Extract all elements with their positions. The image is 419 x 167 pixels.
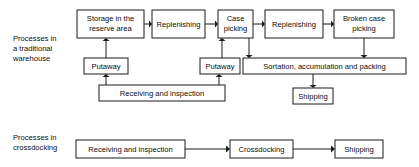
edge-receiving-to-putaway-2 [216,74,223,85]
group-label-crossdocking: Processes in crossdocking [13,133,57,152]
edge-receiving-bottom-to-crossdocking [185,146,230,153]
node-receiving-bottom-label: Receiving and inspection [88,145,172,154]
edge-case-picking-to-sortation [246,38,253,58]
node-shipping-bottom-label: Shipping [344,145,374,154]
node-receiving-top[interactable]: Receiving and inspection [99,85,225,101]
node-receiving-bottom[interactable]: Receiving and inspection [76,140,185,158]
group-label-crossdocking-line-2: crossdocking [13,143,57,152]
group-label-traditional: Processes in a traditional warehouse [12,34,56,63]
edge-crossdocking-to-shipping-bottom [293,146,335,153]
node-putaway-2-label: Putaway [205,62,234,71]
node-case-picking[interactable]: Case picking [218,10,253,38]
diagram-canvas: Processes in a traditional warehouse Pro… [0,0,419,167]
edge-case-picking-to-replenishing-2 [253,21,265,28]
node-case-picking-line-2: picking [224,24,248,33]
node-replenishing-1-label: Replenishing [157,20,201,29]
node-replenishing-2[interactable]: Replenishing [265,10,323,38]
node-putaway-1-label: Putaway [91,62,120,71]
node-putaway-1[interactable]: Putaway [84,58,128,74]
group-label-crossdocking-line-1: Processes in [13,133,56,142]
edge-replenishing-1-to-case-picking [205,21,218,28]
node-storage-reserve-line-2: reserve area [89,24,132,33]
node-crossdocking[interactable]: Crossdocking [230,140,293,158]
edge-putaway-1-to-storage [103,38,110,58]
node-crossdocking-label: Crossdocking [238,145,284,154]
node-case-picking-line-1: Case [227,14,245,23]
node-sortation-label: Sortation, accumulation and packing [263,62,385,71]
node-replenishing-2-label: Replenishing [272,20,316,29]
process-flow-diagram: Processes in a traditional warehouse Pro… [0,0,419,167]
node-shipping-top[interactable]: Shipping [293,88,333,104]
edge-putaway-2-to-case-picking [219,38,226,58]
node-broken-case-picking-line-2: picking [352,24,376,33]
group-label-traditional-line-3: warehouse [12,54,50,63]
node-putaway-2[interactable]: Putaway [200,58,240,74]
node-sortation[interactable]: Sortation, accumulation and packing [243,58,406,74]
node-shipping-bottom[interactable]: Shipping [335,140,383,158]
group-label-traditional-line-2: a traditional [13,44,53,53]
edge-broken-case-picking-to-sortation [361,38,368,58]
node-replenishing-1[interactable]: Replenishing [152,10,205,38]
group-label-traditional-line-1: Processes in [13,34,56,43]
node-broken-case-picking-line-1: Broken case [343,14,385,23]
node-storage-reserve[interactable]: Storage in the reserve area [77,10,144,38]
node-broken-case-picking[interactable]: Broken case picking [334,10,394,38]
edge-storage-to-replenishing-1 [144,21,152,28]
node-shipping-top-label: Shipping [298,92,328,101]
edge-receiving-to-putaway-1 [103,74,110,85]
edge-replenishing-2-to-broken-case-picking [323,21,334,28]
node-receiving-top-label: Receiving and inspection [120,89,204,98]
node-storage-reserve-line-1: Storage in the [87,14,134,23]
edge-sortation-to-shipping [310,74,317,88]
